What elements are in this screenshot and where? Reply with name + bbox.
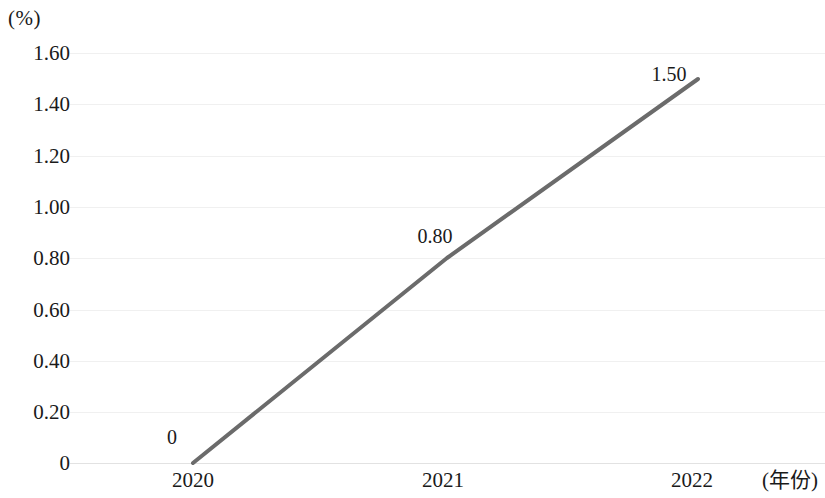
x-axis-title: (年份) (762, 470, 818, 491)
plot-area (0, 0, 825, 498)
line-chart: (%) 1.601.401.201.000.800.600.400.200 00… (0, 0, 825, 498)
data-point-label: 0.80 (418, 226, 453, 246)
x-axis-tick-label: 2020 (172, 470, 214, 491)
x-axis-tick-label: 2021 (422, 470, 464, 491)
data-point-label: 1.50 (652, 64, 687, 84)
data-point-label: 0 (167, 427, 177, 447)
data-series-line (193, 79, 698, 463)
x-axis-tick-label: 2022 (671, 470, 713, 491)
